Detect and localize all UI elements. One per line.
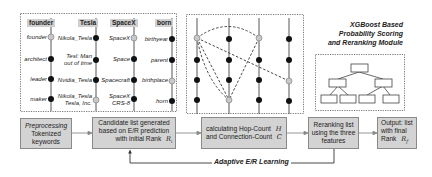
candidate-generation-box: Candidate list generated based on E/R pr… xyxy=(92,117,176,149)
candidate-label: Space xyxy=(113,56,130,63)
module-title-line: XGBoost Based xyxy=(350,21,403,28)
step-label: using the three xyxy=(309,129,358,137)
candidate-label: architect xyxy=(24,56,47,63)
preprocessing-box: Preprocessing Tokenized keywords xyxy=(20,118,72,149)
candidate-label: Nvidia_Tesla xyxy=(58,77,92,84)
candidate-label: parent xyxy=(151,57,168,64)
module-title-line: and Reranking Module xyxy=(328,39,403,46)
candidate-label-line: Nikola_Tesla xyxy=(58,93,92,99)
candidate-label: maker xyxy=(30,96,47,103)
column-header-spacex: SpaceX xyxy=(110,19,138,27)
rank-symbol: Ri xyxy=(166,135,172,143)
candidate-label-line: out of time xyxy=(64,60,92,66)
graph-nodes xyxy=(194,35,292,104)
step-label: features xyxy=(309,137,358,145)
step-label: with final xyxy=(381,127,407,135)
module-title-line: Probability Scoring xyxy=(339,30,403,37)
candidate-label-line: SpaceX xyxy=(109,93,130,99)
candidate-label: horn xyxy=(156,98,168,105)
candidate-label: Spacecraft xyxy=(101,77,130,84)
column-header-founder: founder xyxy=(27,19,55,27)
candidate-label-line: CRS-8 xyxy=(112,100,130,106)
candidate-label: Tesl: Man out of time xyxy=(64,53,92,66)
candidate-label-line: Tesla, Inc. xyxy=(65,100,92,106)
candidate-label: SpaceX xyxy=(109,35,130,42)
step-label: calculating Hop-Count H xyxy=(206,125,282,133)
step-label: and Connection-Count C xyxy=(206,133,282,141)
candidate-label: founder xyxy=(27,34,47,41)
candidate-label-line: Tesl: Man xyxy=(66,53,92,59)
decision-tree-icon xyxy=(321,64,399,103)
column-header-born: born xyxy=(155,19,173,27)
hop-count-symbol: H xyxy=(276,125,282,133)
hop-count-box: calculating Hop-Count H and Connection-C… xyxy=(201,117,287,149)
step-label-text: with initial Rank xyxy=(115,135,161,142)
step-label: Reranking list xyxy=(309,121,358,129)
step-label: Tokenized xyxy=(21,130,71,138)
step-label: with initial Rank Ri xyxy=(93,135,175,146)
column-header-tesla: Tesla xyxy=(78,19,98,27)
step-label: Output: list xyxy=(381,119,413,127)
step-label: Candidate list generated xyxy=(93,119,175,127)
candidate-label: SpaceX CRS-8 xyxy=(109,93,130,106)
candidate-label: birthyear xyxy=(145,36,168,43)
output-box: Output: list with final Rank Rf xyxy=(377,117,417,149)
connection-count-symbol: C xyxy=(277,133,282,141)
candidate-label: Nikola_Tesla xyxy=(58,35,92,42)
candidate-label: birthplace xyxy=(142,77,168,84)
candidate-label: Nikola_Tesla Tesla, Inc. xyxy=(58,93,92,106)
step-label: keywords xyxy=(21,138,71,146)
step-label: Rank Rf xyxy=(381,135,408,146)
adaptive-learning-label: Adaptive E/R Learning xyxy=(212,158,291,165)
candidate-label: leader xyxy=(30,76,47,83)
module-title: XGBoost Based Probability Scoring and Re… xyxy=(328,20,403,47)
final-rank-symbol: Rf xyxy=(401,135,408,143)
reranking-box: Reranking list using the three features xyxy=(308,117,359,149)
step-label: based on E/R prediction xyxy=(93,127,175,135)
step-label: Preprocessing xyxy=(21,122,71,130)
